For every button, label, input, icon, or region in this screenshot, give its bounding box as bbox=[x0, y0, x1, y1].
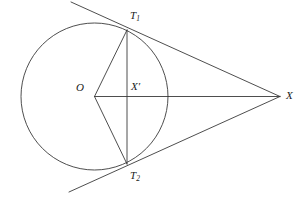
prime-mark-icon: ′ bbox=[138, 80, 140, 92]
point-label-t2: T2 bbox=[130, 170, 140, 181]
point-label-x-prime-text: X bbox=[131, 80, 138, 92]
point-label-x-prime: X′ bbox=[131, 81, 140, 92]
geometry-figure: O T1 T2 X′ X bbox=[0, 0, 304, 199]
point-label-o-text: O bbox=[76, 81, 84, 93]
point-label-x: X bbox=[286, 90, 293, 101]
tangent-line-lower bbox=[69, 97, 280, 193]
radius-segment-o-t2 bbox=[95, 97, 128, 165]
point-label-o: O bbox=[76, 82, 84, 93]
radius-segment-o-t1 bbox=[95, 30, 128, 97]
point-label-t1: T1 bbox=[130, 10, 140, 21]
geometry-canvas bbox=[0, 0, 304, 199]
point-label-x-text: X bbox=[286, 89, 293, 101]
point-label-t1-subscript: 1 bbox=[136, 14, 140, 23]
tangent-line-upper bbox=[71, 2, 280, 97]
point-label-t2-subscript: 2 bbox=[136, 174, 140, 183]
